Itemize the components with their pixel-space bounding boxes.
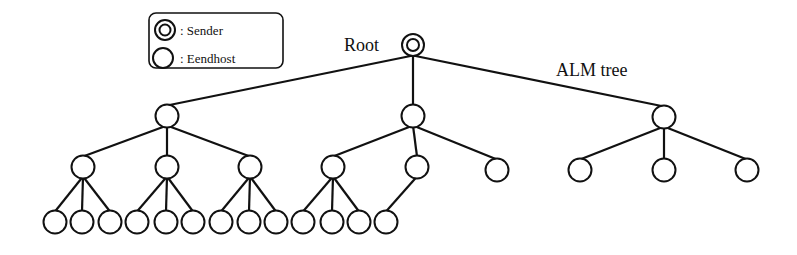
tree-edge — [664, 127, 747, 160]
tree-edges — [55, 56, 747, 212]
endhost-node — [99, 211, 122, 234]
tree-edge — [303, 177, 333, 212]
endhost-node — [72, 156, 95, 179]
endhost-node — [292, 211, 315, 234]
endhost-node — [322, 156, 345, 179]
endhost-node — [182, 211, 205, 234]
endhost-node — [736, 159, 759, 182]
root-sender-node — [402, 34, 424, 56]
alm-tree-label: ALM tree — [556, 60, 627, 80]
tree-edge — [413, 126, 417, 157]
sender-legend-icon — [155, 20, 175, 40]
tree-edge — [250, 177, 276, 212]
endhost-node — [406, 156, 429, 179]
endhost-legend-icon — [153, 48, 173, 68]
root-label: Root — [344, 35, 379, 55]
tree-edge — [333, 177, 359, 212]
tree-edge — [137, 177, 167, 212]
legend-endhost-label: : Eendhost — [180, 51, 236, 66]
endhost-node — [569, 159, 592, 182]
endhost-node — [321, 211, 344, 234]
endhost-node — [238, 211, 261, 234]
tree-edge — [249, 177, 250, 212]
endhost-node — [210, 211, 233, 234]
endhost-node — [155, 211, 178, 234]
endhost-node — [126, 211, 149, 234]
tree-edge — [55, 177, 83, 212]
endhost-node — [486, 159, 509, 182]
tree-edge — [167, 126, 250, 157]
tree-edge — [166, 177, 167, 212]
legend-sender-label: : Sender — [180, 23, 224, 38]
tree-edge — [333, 126, 413, 157]
tree-edge — [82, 177, 83, 212]
tree-edge — [332, 177, 333, 212]
endhost-node — [44, 211, 67, 234]
tree-edge — [83, 177, 110, 212]
endhost-node — [156, 156, 179, 179]
tree-edge — [413, 126, 497, 160]
endhost-node — [348, 211, 371, 234]
alm-tree-diagram: : Sender : Eendhost Root ALM tree — [0, 0, 797, 255]
tree-edge — [580, 127, 664, 160]
legend: : Sender : Eendhost — [149, 13, 283, 68]
endhost-node — [375, 211, 398, 234]
endhost-node — [71, 211, 94, 234]
tree-edge — [386, 177, 417, 212]
endhost-node — [653, 159, 676, 182]
tree-edge — [83, 126, 167, 157]
endhost-node — [156, 105, 179, 128]
tree-edge — [167, 177, 193, 212]
endhost-node — [239, 156, 262, 179]
tree-edge — [221, 177, 250, 212]
endhost-node — [402, 105, 425, 128]
endhost-node — [265, 211, 288, 234]
endhost-node — [653, 106, 676, 129]
